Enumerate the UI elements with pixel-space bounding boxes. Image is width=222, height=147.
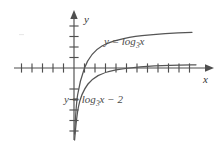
y-axis-label: y bbox=[83, 13, 89, 25]
curve1-label-argument: x bbox=[139, 35, 145, 47]
figure-background bbox=[0, 0, 222, 147]
logarithm-graph-figure: y x y = log3x y = log3x − 2 bbox=[0, 0, 222, 147]
x-axis-label: x bbox=[202, 73, 208, 85]
scan-artifact-mark bbox=[19, 34, 24, 35]
curve2-label-prefix: y = log bbox=[63, 93, 96, 105]
curve1-label-prefix: y = log bbox=[103, 35, 136, 47]
curve2-label-suffix: − 2 bbox=[104, 93, 123, 105]
